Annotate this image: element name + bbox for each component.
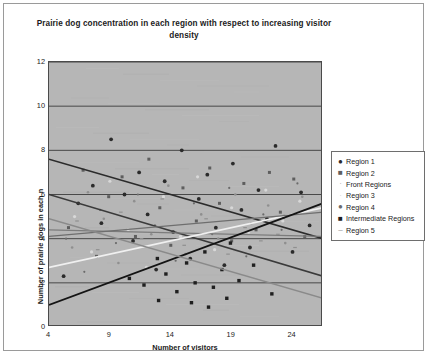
data-point (217, 237, 220, 240)
legend-item-4[interactable]: ·Region 3 (336, 190, 421, 201)
data-point (175, 260, 177, 262)
data-point (193, 281, 196, 284)
data-point (67, 226, 70, 229)
data-point (107, 195, 110, 198)
data-point (240, 208, 244, 212)
data-point (276, 234, 280, 235)
data-point (293, 247, 297, 248)
data-point (160, 198, 164, 199)
background-texture (86, 68, 119, 69)
legend-marker-icon: ● (336, 158, 345, 166)
x-axis-tick: 9 (95, 330, 123, 339)
trendline-series-6 (49, 203, 322, 305)
data-point (185, 261, 188, 264)
plot-canvas (49, 62, 322, 326)
data-point (292, 178, 295, 181)
data-point (91, 184, 95, 188)
series-7-points (75, 198, 297, 254)
legend-item-1[interactable]: ●Region 1 (336, 156, 421, 167)
data-point (274, 144, 278, 148)
data-point (203, 250, 206, 253)
background-texture (226, 186, 279, 187)
data-point (62, 274, 66, 278)
data-point (182, 245, 186, 246)
data-point (175, 290, 178, 293)
data-point (234, 193, 237, 196)
data-point (137, 193, 139, 195)
data-point (252, 263, 255, 266)
legend-item-7[interactable]: –Region 5 (336, 224, 421, 235)
background-texture (219, 121, 249, 122)
data-point (179, 235, 182, 238)
background-texture (203, 310, 229, 311)
data-point (142, 283, 145, 286)
data-point (163, 179, 167, 183)
data-point (73, 215, 76, 218)
data-point (150, 233, 153, 236)
data-point (243, 227, 247, 228)
legend-item-label: Front Regions (345, 180, 391, 189)
legend-item-label: Region 2 (345, 169, 375, 178)
background-texture (174, 210, 219, 211)
data-point (268, 171, 271, 174)
background-texture (55, 286, 89, 287)
background-texture (115, 168, 189, 169)
legend-item-3[interactable]: ·Front Regions (336, 179, 421, 190)
background-texture (56, 127, 99, 128)
data-point (213, 248, 216, 251)
data-point (228, 187, 230, 189)
data-point (123, 193, 127, 197)
data-point (157, 299, 160, 302)
data-point (154, 268, 158, 272)
data-point (65, 238, 67, 240)
plot-area (48, 61, 322, 326)
data-point (281, 219, 284, 222)
background-texture (77, 322, 129, 323)
data-point (242, 182, 245, 185)
x-axis-label: Number of visitors (48, 343, 322, 352)
data-point (284, 242, 287, 245)
data-point (87, 191, 90, 194)
data-point (280, 229, 282, 231)
data-point (121, 175, 124, 178)
trendline-series-1 (49, 159, 322, 239)
data-point (226, 254, 230, 255)
data-point (298, 200, 301, 203)
data-point (75, 220, 79, 221)
data-point (156, 257, 159, 260)
legend-item-6[interactable]: ■Intermediate Regions (336, 213, 421, 224)
data-point (218, 202, 221, 205)
data-point (299, 190, 303, 194)
background-texture (234, 92, 259, 93)
data-point (259, 240, 263, 241)
data-point (257, 188, 261, 192)
data-point (262, 213, 264, 215)
background-texture (93, 133, 149, 134)
background-texture (92, 292, 139, 293)
data-point (181, 186, 184, 189)
data-point (158, 206, 161, 209)
data-point (212, 286, 215, 289)
background-texture (211, 215, 269, 216)
y-axis-tick: 12 (21, 57, 45, 66)
data-point (134, 235, 137, 238)
background-texture (240, 316, 279, 317)
legend-item-label: Region 5 (345, 226, 375, 235)
legend-item-5[interactable]: ●Region 4 (336, 202, 421, 213)
background-texture (71, 97, 109, 98)
data-point (133, 200, 136, 203)
data-point (207, 305, 210, 308)
data-point (109, 137, 113, 141)
legend-marker-icon: · (336, 192, 345, 200)
background-texture (197, 86, 269, 87)
data-point (204, 218, 208, 219)
background-texture (241, 156, 289, 157)
legend-marker-icon: ■ (336, 215, 345, 223)
legend-item-2[interactable]: ■Region 2 (336, 167, 421, 178)
data-point (196, 175, 199, 178)
background-texture (107, 263, 149, 264)
y-axis-label: Number of prairie dogs in each n (36, 167, 45, 327)
series-2-points (67, 158, 306, 258)
x-axis-tick: 24 (278, 330, 306, 339)
data-point (248, 246, 252, 250)
